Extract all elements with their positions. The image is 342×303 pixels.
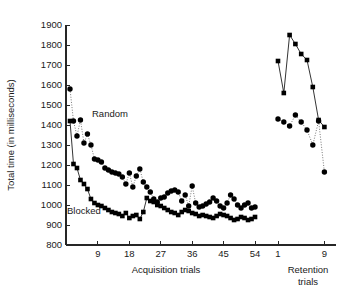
data-point-random xyxy=(224,200,229,205)
data-point-random xyxy=(141,179,146,184)
y-axis-tick-label: 1800 xyxy=(41,39,62,50)
data-point-random xyxy=(134,173,139,178)
data-point-random xyxy=(120,174,125,179)
data-point-random xyxy=(179,198,184,203)
x-axis-title-retention: Retention xyxy=(288,264,329,275)
data-point-random xyxy=(183,192,188,197)
data-point-random xyxy=(81,140,86,145)
data-point-blocked xyxy=(68,119,73,124)
data-point-random xyxy=(281,119,286,124)
x-axis: 9182736455419 xyxy=(66,241,336,259)
data-point-random xyxy=(287,123,292,128)
data-point-blocked xyxy=(299,52,304,57)
data-point-blocked xyxy=(276,59,281,64)
y-axis-tick-label: 1900 xyxy=(41,19,62,30)
x-axis-tick-label-acquisition: 18 xyxy=(124,248,135,259)
data-point-random xyxy=(78,117,83,122)
x-axis-tick-label-acquisition: 36 xyxy=(187,248,198,259)
data-point-blocked xyxy=(138,217,143,222)
chart-figure: 8009001000110012001300140015001600170018… xyxy=(0,0,342,303)
data-point-blocked xyxy=(78,178,83,183)
y-axis-tick-label: 1500 xyxy=(41,99,62,110)
data-point-random xyxy=(275,116,280,121)
data-point-random xyxy=(148,189,153,194)
y-axis-tick-label: 1400 xyxy=(41,119,62,130)
data-point-blocked xyxy=(282,91,287,96)
series-line-blocked xyxy=(278,35,324,127)
data-point-random xyxy=(127,170,132,175)
y-axis-tick-label: 900 xyxy=(46,219,62,230)
data-point-random xyxy=(189,183,194,188)
data-point-random xyxy=(322,169,327,174)
x-axis-tick-label-retention: 9 xyxy=(322,248,327,259)
series-annotation-blocked: Blocked xyxy=(67,205,101,216)
data-point-blocked xyxy=(134,213,139,218)
data-point-random xyxy=(176,189,181,194)
data-point-blocked xyxy=(293,42,298,47)
data-point-random xyxy=(99,159,104,164)
data-point-blocked xyxy=(311,85,316,90)
x-axis-tick-label-acquisition: 9 xyxy=(95,248,100,259)
data-point-random xyxy=(310,142,315,147)
y-axis-tick-label: 1200 xyxy=(41,159,62,170)
data-point-blocked xyxy=(75,166,80,171)
data-point-random xyxy=(88,142,93,147)
data-point-random xyxy=(74,133,79,138)
y-axis-tick-label: 800 xyxy=(46,239,62,250)
data-point-random xyxy=(137,166,142,171)
data-point-random xyxy=(231,196,236,201)
data-point-random xyxy=(214,198,219,203)
data-point-blocked xyxy=(316,118,321,123)
data-point-random xyxy=(67,86,72,91)
data-point-blocked xyxy=(141,210,146,215)
x-axis-tick-label-retention: 1 xyxy=(275,248,280,259)
x-axis-tick-label-acquisition: 54 xyxy=(250,248,261,259)
data-point-random xyxy=(299,119,304,124)
y-axis-tick-label: 1000 xyxy=(41,199,62,210)
series-line-random xyxy=(70,89,255,208)
y-axis-tick-label: 1700 xyxy=(41,59,62,70)
data-point-random xyxy=(304,127,309,132)
data-point-random xyxy=(245,200,250,205)
data-series-group xyxy=(67,33,327,223)
x-axis-title-retention-line2: trials xyxy=(298,276,318,287)
y-axis-tick-label: 1600 xyxy=(41,79,62,90)
data-point-blocked xyxy=(253,215,258,220)
data-point-blocked xyxy=(305,58,310,63)
data-point-blocked xyxy=(287,33,292,38)
data-point-random xyxy=(144,184,149,189)
data-point-blocked xyxy=(322,125,327,130)
x-axis-tick-label-acquisition: 45 xyxy=(218,248,229,259)
data-point-random xyxy=(221,205,226,210)
data-point-random xyxy=(293,112,298,117)
chart-plot-area: 8009001000110012001300140015001600170018… xyxy=(0,0,342,303)
data-point-random xyxy=(123,181,128,186)
y-axis-tick-label: 1100 xyxy=(42,179,62,190)
y-axis: 8009001000110012001300140015001600170018… xyxy=(41,19,70,250)
x-axis-tick-label-acquisition: 27 xyxy=(155,248,166,259)
y-axis-tick-label: 1300 xyxy=(41,139,62,150)
data-point-random xyxy=(252,204,257,209)
data-point-blocked xyxy=(71,162,76,167)
series-annotation-random: Random xyxy=(92,108,128,119)
x-axis-title-acquisition: Acquisition trials xyxy=(132,264,201,275)
data-point-blocked xyxy=(89,197,94,202)
y-axis-title: Total time (in milliseconds) xyxy=(5,79,16,190)
data-point-blocked xyxy=(85,187,90,192)
data-point-random xyxy=(130,184,135,189)
data-point-random xyxy=(85,131,90,136)
data-point-blocked xyxy=(82,182,87,187)
data-point-blocked xyxy=(124,211,129,216)
